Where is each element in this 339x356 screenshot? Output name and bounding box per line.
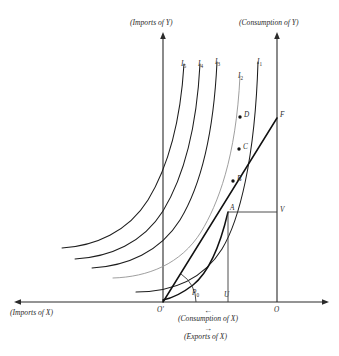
point-dot-B [231,179,234,182]
origin-label-consumption: O [274,307,279,314]
axis-label-consumption-y: (Consumption of Y) [239,19,299,27]
economics-diagram: (Imports of Y) (Consumption of Y) (Impor… [0,0,339,356]
terms-of-trade-line [163,118,277,302]
origin-label-trade: O′ [157,307,164,314]
diagram-canvas [0,0,339,356]
vertical-axis-left [160,32,166,302]
axis-label-exports-x: (Exports of X) [184,333,227,341]
point-label-A: A [230,205,234,212]
vertical-axis-right [274,32,280,302]
curve-label-I5: I5 [181,60,186,70]
point-label-U: U [224,292,229,299]
curve-label-I4: I4 [198,60,203,70]
point-label-D: D [244,112,249,119]
curve-label-I3: I3 [215,58,220,68]
point-markers [231,115,241,182]
point-dot-D [238,115,241,118]
indifference-curve-I5 [62,64,184,248]
indifference-curve-I2 [113,76,240,278]
horizontal-axis [14,299,329,305]
guide-lines [228,212,277,302]
curve-label-I2: I2 [238,72,243,82]
left-arrow-icon: ← [204,307,212,315]
point-label-F: F [280,112,284,119]
axis-label-imports-y: (Imports of Y) [130,19,173,27]
point-label-C: C [243,144,248,151]
point-label-B: B [237,176,241,183]
point-dot-C [237,147,240,150]
point-label-P0: P0 [192,290,199,299]
axis-label-imports-x: (Imports of X) [10,309,53,317]
axis-label-consumption-x: (Consumption of X) [178,315,238,323]
curve-label-I1: I1 [257,58,262,68]
point-label-V: V [280,207,284,214]
